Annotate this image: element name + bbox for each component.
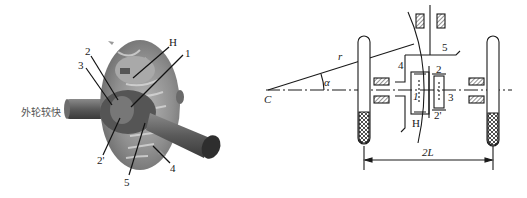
label-H: H [169,37,177,48]
ring-gear-4-lower [395,96,405,132]
differential-3d-illustration: 外轮较快 2 3 H 1 2' 5 4 [0,0,264,198]
label-H: H [412,118,420,129]
label-4: 4 [398,60,404,71]
schematic-drawing [264,0,527,198]
differential-3d-drawing [0,0,264,198]
label-r: r [338,51,342,62]
label-1: 1 [185,48,191,59]
label-2: 2 [85,46,91,57]
differential-schematic: C r α 5 4 2 1 3 2' H 2L [264,0,527,198]
label-2: 2 [436,64,442,75]
label-2-prime: 2' [434,110,441,121]
label-4: 4 [170,163,176,174]
label-2-prime: 2' [97,155,104,166]
label-5: 5 [442,42,448,53]
right-wheel [487,36,499,146]
label-5: 5 [124,177,130,188]
label-2L: 2L [422,147,434,158]
pinion-5 [405,51,460,55]
label-3: 3 [78,60,84,71]
label-1: 1 [413,91,419,102]
label-3: 3 [448,92,454,103]
label-alpha: α [324,77,330,88]
left-wheel [358,36,370,144]
label-C: C [264,94,271,105]
outer-wheel-faster-label: 外轮较快 [21,107,61,118]
